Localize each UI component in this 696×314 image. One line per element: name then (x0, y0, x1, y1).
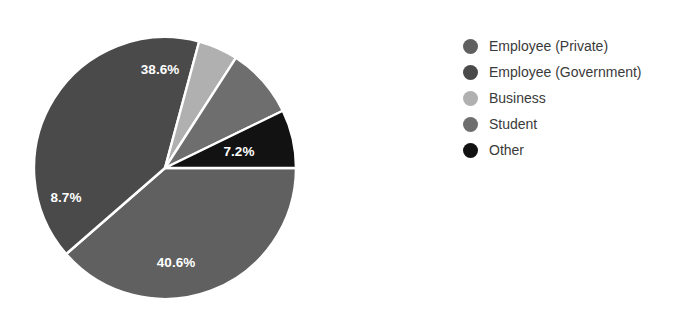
chart-legend: Employee (Private)Employee (Government)B… (463, 33, 693, 163)
legend-item[interactable]: Other (463, 137, 693, 163)
pie-slice-percent-label: 8.7% (51, 190, 82, 205)
legend-item[interactable]: Student (463, 111, 693, 137)
legend-item-label: Student (489, 117, 537, 131)
legend-swatch-icon (463, 117, 478, 132)
pie-slice-percent-label: 40.6% (157, 255, 195, 270)
legend-item[interactable]: Business (463, 85, 693, 111)
pie-slice-percent-label: 38.6% (141, 62, 179, 77)
legend-swatch-icon (463, 91, 478, 106)
legend-item-label: Other (489, 143, 524, 157)
pie-slice-percent-label: 7.2% (224, 144, 255, 159)
legend-item-label: Business (489, 91, 546, 105)
legend-swatch-icon (463, 39, 478, 54)
legend-item[interactable]: Employee (Private) (463, 33, 693, 59)
legend-item-label: Employee (Private) (489, 39, 608, 53)
legend-item-label: Employee (Government) (489, 65, 642, 79)
pie-chart-figure: 38.6%40.6%8.7%7.2% Employee (Private)Emp… (0, 0, 696, 314)
legend-swatch-icon (463, 65, 478, 80)
legend-item[interactable]: Employee (Government) (463, 59, 693, 85)
legend-swatch-icon (463, 143, 478, 158)
pie-svg: 38.6%40.6%8.7%7.2% (33, 36, 297, 300)
pie-chart-plot-area: 38.6%40.6%8.7%7.2% (33, 36, 297, 300)
